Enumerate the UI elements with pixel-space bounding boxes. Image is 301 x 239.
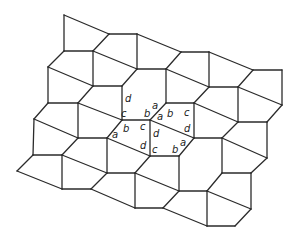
tile-edge xyxy=(135,156,150,173)
angle-label-a: a xyxy=(152,100,158,111)
angle-label-c: c xyxy=(140,121,146,132)
angle-label-c: c xyxy=(152,144,158,155)
tile-edge xyxy=(194,87,209,103)
tile-edge xyxy=(163,208,207,226)
angle-label-c: c xyxy=(121,108,127,119)
tile-edge xyxy=(33,119,34,155)
tile-edge xyxy=(17,155,33,171)
pentagon-tiling-diagram: dacbabcabcddadcb xyxy=(0,0,301,239)
tile-edge xyxy=(122,69,137,86)
tile-edge xyxy=(166,69,209,87)
tile-edge xyxy=(235,209,251,226)
tile-edge xyxy=(238,87,282,105)
tile-edge xyxy=(64,15,109,34)
tile-edge xyxy=(17,171,62,189)
tile-edge xyxy=(222,138,267,158)
tile-edge xyxy=(91,173,107,189)
tile-edge xyxy=(135,173,179,191)
angle-label-b: b xyxy=(123,123,129,134)
tile-edge xyxy=(34,103,48,119)
tile-edge xyxy=(93,34,109,51)
angle-label-d: d xyxy=(184,123,191,134)
angle-label-b: b xyxy=(144,108,150,119)
angle-label-b: b xyxy=(167,108,173,119)
angle-label-a: a xyxy=(112,129,118,140)
angle-label-d: d xyxy=(153,128,160,139)
tile-edge xyxy=(93,51,137,69)
tile-edge xyxy=(163,191,179,208)
tile-edge xyxy=(207,191,251,209)
angle-label-b: b xyxy=(172,144,178,155)
tile-edge xyxy=(78,86,93,103)
tile-edge xyxy=(222,122,238,138)
tile-edge xyxy=(137,34,181,52)
tile-edge xyxy=(48,67,93,86)
tile-edge xyxy=(78,103,122,120)
tile-edge xyxy=(62,138,78,155)
tile-edge xyxy=(91,189,135,208)
tile-edge xyxy=(166,52,181,69)
tile-edge xyxy=(62,155,107,173)
tile-edge xyxy=(209,52,253,70)
tile-edges xyxy=(17,15,282,226)
tile-edge xyxy=(267,105,282,122)
tile-edge xyxy=(251,158,267,173)
tile-edge xyxy=(34,119,78,138)
tile-edge xyxy=(194,103,238,122)
angle-label-d: d xyxy=(140,140,147,151)
angle-label-a: a xyxy=(180,137,186,148)
tile-edge xyxy=(48,51,64,67)
tile-edge xyxy=(238,70,253,87)
angle-label-c: c xyxy=(184,107,190,118)
angle-label-d: d xyxy=(125,93,132,104)
tile-edge xyxy=(207,173,222,191)
angle-label-a: a xyxy=(157,111,163,122)
